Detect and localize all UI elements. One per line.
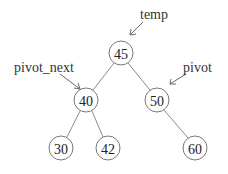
tree-diagram: 45 40 50 30 42 60 temp pivot_next pivot	[0, 0, 228, 174]
edge-45-40	[93, 63, 114, 90]
node-42: 42	[96, 136, 120, 160]
edge-50-60	[164, 110, 188, 138]
node-value: 40	[79, 94, 93, 109]
node-40: 40	[74, 88, 98, 112]
node-value: 60	[188, 142, 202, 157]
node-value: 30	[54, 142, 68, 157]
arrow-temp-icon	[130, 22, 143, 35]
node-value: 45	[114, 47, 128, 62]
node-60: 60	[183, 136, 207, 160]
node-value: 50	[150, 94, 164, 109]
edge-40-42	[92, 111, 103, 137]
edge-40-30	[67, 111, 80, 137]
arrow-pivot-icon	[170, 74, 186, 84]
node-45: 45	[109, 41, 133, 65]
label-temp: temp	[140, 7, 168, 22]
node-30: 30	[49, 136, 73, 160]
arrow-pivot-next-icon	[60, 74, 80, 89]
node-50: 50	[145, 88, 169, 112]
label-pivot: pivot	[183, 60, 212, 75]
label-pivot-next: pivot_next	[14, 60, 74, 75]
node-value: 42	[101, 142, 115, 157]
edge-45-50	[128, 63, 150, 90]
